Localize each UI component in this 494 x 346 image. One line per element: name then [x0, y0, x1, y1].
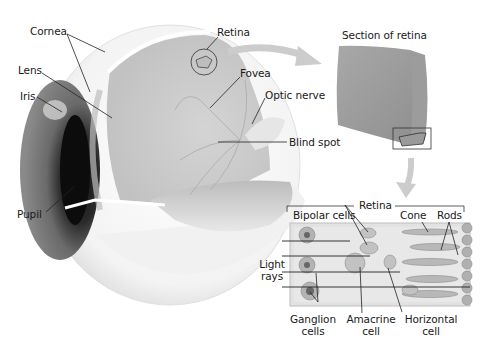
label-fovea: Fovea — [240, 67, 271, 79]
label-iris: Iris — [20, 90, 35, 102]
retina-section-block — [337, 46, 431, 149]
label-optic-nerve: Optic nerve — [265, 89, 325, 101]
label-light-rays: Light rays — [256, 258, 288, 282]
label-horizontal-cell: Horizontal cell — [400, 313, 462, 337]
label-retina-detail-title: Retina — [359, 199, 392, 211]
label-cone: Cone — [400, 209, 426, 221]
label-lens: Lens — [18, 64, 42, 76]
label-section-of-retina: Section of retina — [342, 29, 427, 41]
label-blind-spot: Blind spot — [289, 136, 340, 148]
label-pupil: Pupil — [17, 208, 42, 220]
retina-detail-panel — [282, 205, 472, 313]
eye-anatomy-diagram — [0, 0, 494, 346]
label-bipolar-cells: Bipolar cells — [293, 209, 355, 221]
label-cornea: Cornea — [30, 25, 67, 37]
label-rods: Rods — [437, 209, 462, 221]
label-amacrine-cell: Amacrine cell — [342, 313, 400, 337]
label-ganglion-cells: Ganglion cells — [286, 313, 340, 337]
label-retina: Retina — [217, 26, 250, 38]
